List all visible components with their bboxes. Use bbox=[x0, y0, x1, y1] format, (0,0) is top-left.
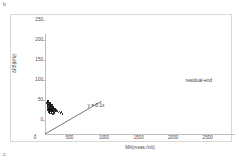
panel-label-b: b bbox=[3, 2, 6, 7]
y-tick-label: 0 bbox=[29, 118, 43, 123]
trendline-equation-label: y = 0.1x bbox=[88, 104, 105, 109]
x-tick-label: 2500 bbox=[196, 136, 220, 141]
y-tick-mark bbox=[43, 20, 45, 21]
plot-area bbox=[45, 34, 235, 134]
x-axis-title: MA(meas./init) bbox=[45, 146, 235, 151]
chart-frame: ΔFB(kHz) MA(meas./init) 050100150200250 … bbox=[10, 14, 232, 142]
x-tick-label: 0 bbox=[23, 136, 47, 141]
y-tick-label: 200 bbox=[29, 38, 43, 43]
x-tick-label: 1500 bbox=[127, 136, 151, 141]
trendline bbox=[45, 34, 235, 134]
y-axis-title: ΔFB(kHz) bbox=[13, 53, 18, 73]
x-tick-label: 2000 bbox=[161, 136, 185, 141]
panel-label-c: c bbox=[3, 152, 6, 157]
y-tick-label: 150 bbox=[29, 58, 43, 63]
x-tick-label: 500 bbox=[58, 136, 82, 141]
y-tick-label: 250 bbox=[29, 18, 43, 23]
x-tick-label: 1000 bbox=[92, 136, 116, 141]
scatter-point bbox=[53, 112, 55, 114]
y-tick-label: 100 bbox=[29, 78, 43, 83]
residual-end-annotation: residual-end bbox=[186, 79, 212, 84]
scatter-point bbox=[52, 114, 54, 116]
y-tick-label: 50 bbox=[29, 98, 43, 103]
